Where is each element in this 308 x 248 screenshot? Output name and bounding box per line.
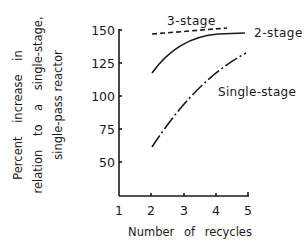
- x-tick-4: 4: [212, 203, 220, 218]
- series-3-stage: [152, 28, 227, 34]
- chart: 150 125 100 75 50 1 2 3 4 5 Number of re…: [0, 0, 308, 248]
- series-single-stage: [152, 53, 246, 147]
- svg-text:Percent increase in: Percent increase in: [11, 50, 25, 180]
- x-tick-5: 5: [244, 203, 252, 218]
- y-tick-50: 50: [99, 155, 115, 170]
- axes: [119, 29, 249, 196]
- x-tick-1: 1: [115, 203, 123, 218]
- svg-text:relation to a single-stage,: relation to a single-stage,: [31, 16, 45, 193]
- y-tick-125: 125: [91, 56, 115, 71]
- y-tick-75: 75: [99, 122, 115, 137]
- series-2-stage: [152, 33, 245, 73]
- y-axis-title: Percent increase in relation to a single…: [11, 16, 65, 193]
- y-tick-150: 150: [91, 23, 115, 38]
- label-single-stage: Single-stage: [218, 85, 296, 99]
- x-tick-3: 3: [180, 203, 188, 218]
- y-tick-100: 100: [91, 89, 115, 104]
- svg-text:single-pass reactor: single-pass reactor: [51, 50, 65, 160]
- label-2-stage: 2-stage: [254, 26, 303, 40]
- label-3-stage: 3-stage: [167, 14, 216, 28]
- x-tick-2: 2: [147, 203, 155, 218]
- x-axis-title: Number of recycles: [128, 225, 252, 239]
